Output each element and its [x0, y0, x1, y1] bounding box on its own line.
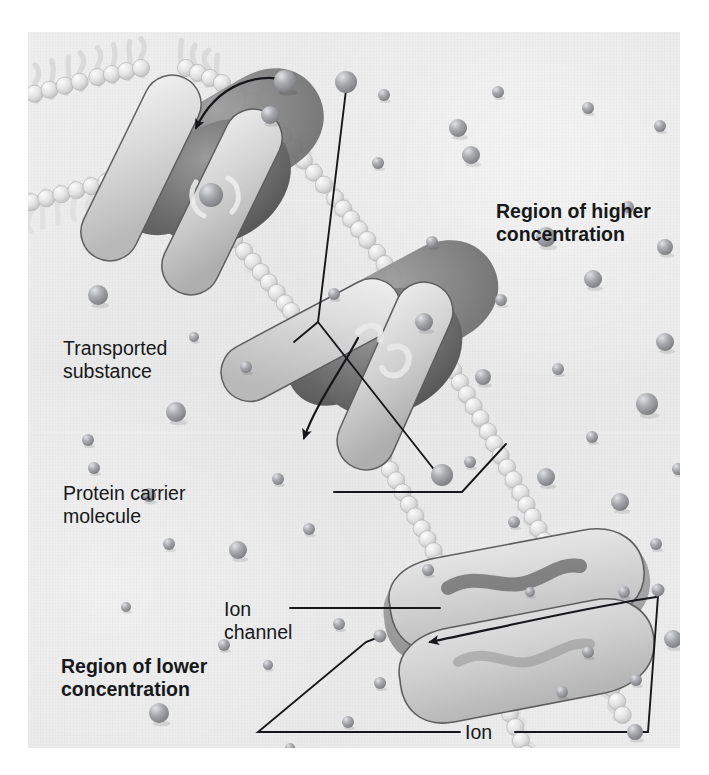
solute-particle: [149, 703, 169, 723]
phospholipid-head: [103, 65, 120, 82]
solute-particle: [672, 463, 680, 475]
particle-ion-left: [374, 630, 387, 643]
solute-particle: [240, 361, 252, 373]
diagram-artwork: [28, 32, 680, 748]
solute-particle: [274, 70, 296, 92]
solute-particle: [495, 294, 507, 306]
solute-particle: [582, 102, 594, 114]
phospholipid-head: [53, 186, 70, 203]
phospholipid-head: [118, 62, 135, 79]
solute-particle: [611, 493, 629, 511]
solute-particle: [82, 434, 94, 446]
solute-particle: [189, 332, 199, 342]
solute-particle: [657, 239, 673, 255]
solute-particle: [422, 564, 434, 576]
solute-particle: [88, 285, 108, 305]
solute-particle: [426, 236, 438, 248]
solute-particle: [627, 724, 643, 740]
label-transported-substance: Transported substance: [63, 337, 167, 383]
solute-particle: [449, 119, 467, 137]
phospholipid-head: [41, 81, 58, 98]
solute-particle: [464, 456, 476, 468]
solute-particle: [328, 288, 340, 300]
solute-particle: [415, 313, 433, 331]
solute-particle: [263, 660, 273, 670]
diagram-figure: Region of higher concentration Region of…: [0, 0, 709, 775]
label-ion-channel: Ion channel: [224, 598, 292, 644]
solute-particle: [372, 157, 384, 169]
phospholipid-head: [89, 68, 106, 85]
solute-particle: [166, 402, 186, 422]
solute-particle: [378, 89, 390, 101]
label-region-higher-concentration: Region of higher concentration: [496, 200, 651, 246]
phospholipid-head: [71, 73, 88, 90]
solute-particle: [664, 630, 680, 648]
label-cell-membrane: Cell membrane: [246, 745, 378, 748]
label-ion: Ion: [465, 721, 492, 744]
solute-particle: [229, 541, 247, 559]
phospholipid-head: [38, 190, 55, 207]
solute-particle: [88, 462, 100, 474]
solute-particle: [272, 473, 284, 485]
solute-particle: [508, 516, 520, 528]
particle-transported-upper: [335, 71, 357, 93]
solute-particle: [462, 146, 480, 164]
solute-particle: [552, 363, 564, 375]
label-protein-carrier-molecule: Protein carrier molecule: [63, 482, 185, 528]
particle-ion-right: [652, 584, 665, 597]
phospholipid-head: [132, 59, 149, 76]
phospholipid-head: [68, 182, 85, 199]
solute-particle: [636, 393, 658, 415]
solute-particle: [492, 86, 504, 98]
solute-particle: [630, 674, 642, 686]
phospholipid-head: [56, 77, 73, 94]
solute-particle: [163, 538, 175, 550]
solute-particle: [261, 106, 279, 124]
phospholipid-head: [315, 176, 332, 193]
particle-transported-lower: [431, 464, 453, 486]
solute-particle: [618, 586, 630, 598]
solute-particle: [121, 602, 131, 612]
solute-particle: [374, 677, 386, 689]
solute-particle: [342, 716, 354, 728]
label-region-lower-concentration: Region of lower concentration: [61, 655, 207, 701]
solute-particle: [333, 618, 345, 630]
solute-particle: [556, 686, 568, 698]
phospholipid-head: [614, 706, 631, 723]
solute-particle: [475, 369, 491, 385]
solute-particle: [586, 431, 598, 443]
solute-particle: [582, 646, 594, 658]
illustration-plate: Region of higher concentration Region of…: [28, 32, 680, 748]
solute-particle: [656, 333, 674, 351]
solute-particle: [650, 538, 662, 550]
solute-particle: [525, 587, 535, 597]
solute-particle: [303, 523, 315, 535]
solute-particle: [537, 468, 555, 486]
solute-particle: [654, 120, 666, 132]
solute-particle: [584, 270, 602, 288]
